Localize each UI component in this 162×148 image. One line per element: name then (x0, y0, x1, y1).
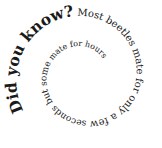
spiral-segment-beetles: Most beetles mate for only a few (73, 7, 145, 131)
spiral-text-graphic: Did you know? Most beetles mate for only… (0, 0, 162, 148)
spiral-segment-seconds: seconds but some (38, 59, 89, 129)
spiral-text: Did you know? Most beetles mate for only… (1, 1, 145, 130)
spiral-segment-did-you-know: Did you know? (1, 1, 74, 116)
spiral-segment-hours: mate for hours (45, 39, 109, 64)
spiral-svg: Did you know? Most beetles mate for only… (0, 0, 162, 148)
